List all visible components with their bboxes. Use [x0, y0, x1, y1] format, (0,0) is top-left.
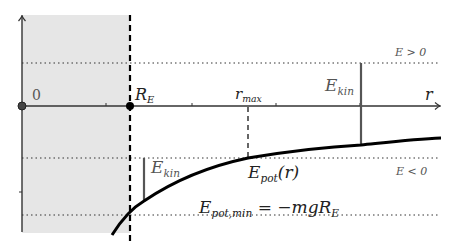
ekin-left-label: Ekin [151, 159, 180, 178]
epot-label-suffix: (r) [278, 162, 299, 182]
epot-min-label-rhs-sub: E [331, 207, 339, 219]
earth-radius-label-sub: E [147, 94, 154, 105]
epot-label: Epot(r) [248, 164, 299, 183]
level-e-positive-label: E > 0 [395, 47, 426, 58]
r-max-label: rmax [235, 87, 262, 104]
potential-energy-curve [112, 138, 441, 235]
epot-min-label-main: E [199, 197, 211, 217]
ekin-right-label: Ekin [325, 77, 354, 96]
epot-min-label-sub: pot,min [211, 207, 252, 219]
earth-radius-label: RE [135, 87, 154, 105]
earth-radius-point [126, 102, 134, 110]
epot-label-main: E [248, 162, 260, 182]
x-axis-label: r [425, 87, 433, 103]
origin-label: 0 [32, 88, 41, 102]
epot-min-label-rhs: = −mgR [252, 197, 331, 217]
potential-energy-diagram: 0 RE rmax r E > 0 E < 0 Ekin Ekin Epot(r… [0, 0, 458, 246]
level-e-negative-label: E < 0 [396, 166, 427, 177]
origin-point [18, 102, 26, 110]
earth-interior-region [22, 15, 130, 233]
ekin-left-label-main: E [151, 157, 163, 177]
ekin-left-label-sub: kin [163, 167, 180, 179]
epot-min-label: Epot,min = −mgRE [199, 199, 339, 218]
earth-radius-label-main: R [135, 85, 147, 104]
ekin-right-label-sub: kin [337, 85, 354, 97]
epot-label-sub: pot [260, 172, 277, 184]
ekin-right-label-main: E [325, 75, 337, 95]
r-max-label-sub: max [242, 93, 262, 104]
